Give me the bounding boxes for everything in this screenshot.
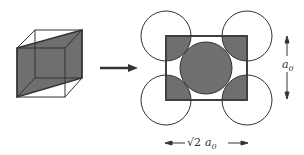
- center-atom: [180, 42, 232, 94]
- atom-plane: [141, 11, 272, 125]
- cube: [17, 30, 82, 97]
- height-label: a0: [282, 58, 294, 73]
- diagram-canvas: a0 √2a0: [0, 0, 304, 155]
- width-label: √2a0: [187, 136, 217, 151]
- diagram: a0 √2a0: [0, 0, 304, 155]
- arrow-icon: [100, 64, 138, 72]
